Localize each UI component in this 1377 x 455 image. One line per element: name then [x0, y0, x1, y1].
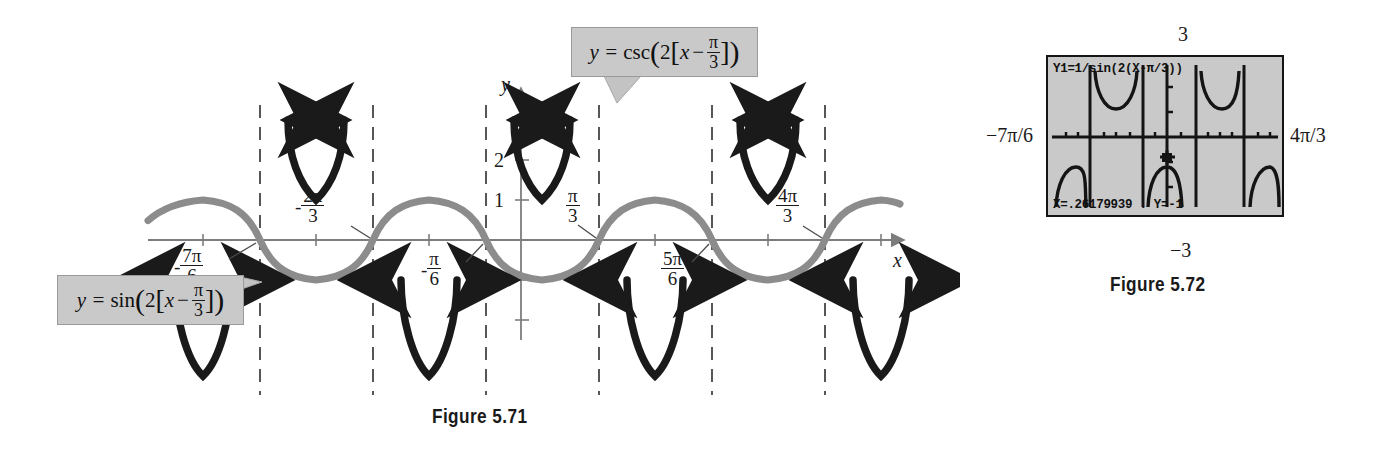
num-4pi3: 4π	[776, 186, 799, 205]
graph-5-71	[0, 10, 960, 430]
den-pi3: 3	[566, 205, 580, 225]
calc-trace-readout: X=.26179939 . Y=-1	[1053, 198, 1183, 212]
y-axis-label: y	[501, 73, 510, 96]
den-neg2pi3: 3	[301, 205, 324, 225]
den-negpi6: 6	[427, 268, 441, 288]
calc-window-xmax-label: 4π/3	[1290, 124, 1326, 147]
calc-window-xmin-label: −7π/6	[986, 124, 1033, 147]
y-tick-label-2: 2	[494, 149, 504, 172]
leader-lines	[229, 225, 822, 262]
num-neg7pi6: 7π	[180, 246, 203, 265]
calc-equation-text: Y1=1/sin(2(X-π/3))	[1053, 62, 1183, 76]
sin-equation-callout: y = sin ( 2 [ x − π3 ] )	[57, 275, 244, 325]
den-5pi6: 6	[661, 268, 684, 288]
calculator-screen: Y1=1/sin(2(X-π/3)) X=.26179939 . Y=-1	[1046, 55, 1284, 217]
figure-stage: y x 2 1 -1 -7π6 -2π3 -π6 π3 5π6 4π3 y = …	[0, 0, 1377, 455]
csc-fn: csc	[623, 40, 650, 65]
calc-window-ymin-label: −3	[1170, 239, 1191, 262]
num-neg2pi3: 2π	[301, 186, 324, 205]
figure-5-71-caption: Figure 5.71	[432, 404, 527, 428]
calculator-plot	[1048, 57, 1282, 215]
sin-frac-num: π	[192, 281, 205, 299]
csc-lhs: y =	[590, 40, 619, 65]
num-pi3: π	[566, 186, 580, 205]
csc-callout-pointer	[604, 76, 641, 103]
x-tick-label-pi3: π3	[566, 186, 580, 226]
sin-minus: −	[177, 288, 189, 313]
csc-arg-lead: 2	[660, 40, 671, 65]
csc-equation-callout: y = csc ( 2 [ x − π3 ] )	[571, 27, 758, 77]
den-4pi3: 3	[776, 205, 799, 225]
x-tick-label-neg2pi3: -2π3	[295, 186, 324, 226]
sin-fn: sin	[110, 288, 135, 313]
csc-frac-num: π	[707, 33, 720, 51]
num-5pi6: 5π	[661, 249, 684, 268]
csc-frac-den: 3	[707, 52, 720, 71]
calc-window-ymax-label: 3	[1178, 23, 1188, 46]
num-negpi6: π	[427, 249, 441, 268]
y-tick-label-neg1: -1	[486, 269, 503, 292]
x-tick-label-negpi6: -π6	[421, 249, 441, 289]
y-tick-label-1: 1	[494, 189, 504, 212]
x-tick-label-5pi6: 5π6	[661, 249, 684, 289]
sin-frac-den: 3	[192, 300, 205, 319]
calculator-screenshot: Y1=1/sin(2(X-π/3)) X=.26179939 . Y=-1	[1046, 55, 1284, 217]
cosecant-curve	[175, 120, 909, 376]
x-tick-label-4pi3: 4π3	[776, 186, 799, 226]
figure-5-72-caption: Figure 5.72	[1110, 272, 1205, 296]
sin-arg-lead: 2	[145, 288, 156, 313]
csc-minus: −	[692, 40, 704, 65]
csc-arg-var: x	[680, 40, 689, 65]
x-axis-label: x	[893, 249, 902, 272]
sin-lhs: y =	[77, 288, 106, 313]
sin-arg-var: x	[165, 288, 174, 313]
